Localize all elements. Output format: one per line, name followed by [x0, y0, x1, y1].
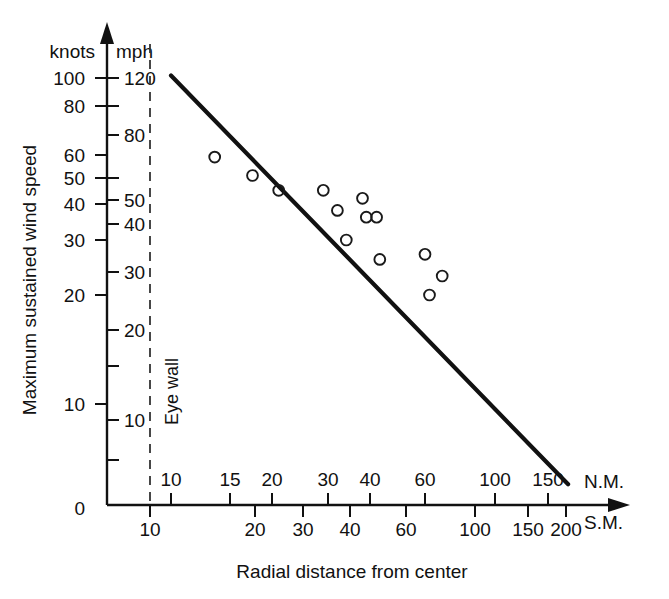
- y-tick-label-knots: 20: [64, 285, 85, 306]
- x-tick-label-nm: 40: [359, 469, 380, 490]
- data-point-marker: [420, 249, 431, 260]
- data-point-marker: [361, 212, 372, 223]
- y-tick-label-knots: 80: [64, 96, 85, 117]
- data-point-marker: [247, 170, 258, 181]
- data-point-marker: [332, 205, 343, 216]
- x-tick-label-nm: 10: [160, 469, 181, 490]
- x-unit-nm-label: N.M.: [584, 471, 624, 492]
- y-tick-label-knots: 10: [64, 394, 85, 415]
- x-unit-sm-label: S.M.: [584, 512, 623, 533]
- y-axis: [100, 22, 114, 505]
- x-tick-label-nm: 60: [414, 469, 435, 490]
- x-tick-label-nm: 30: [317, 469, 338, 490]
- y-tick-label-knots: 60: [64, 145, 85, 166]
- y-ticks-mph-group: 120805040302010: [107, 68, 156, 460]
- data-point-marker: [424, 290, 435, 301]
- x-tick-label-sm: 10: [139, 519, 160, 540]
- y-axis-arrowhead: [100, 22, 114, 44]
- data-point-marker: [374, 254, 385, 265]
- y-unit-mph-header: mph: [116, 41, 153, 62]
- y-tick-label-knots: 50: [64, 168, 85, 189]
- scatter-points-group: [209, 152, 447, 301]
- y-tick-label-mph: 20: [124, 320, 145, 341]
- x-ticks-sm-group: 1020304060100150200: [139, 505, 581, 540]
- x-tick-label-nm: 20: [261, 469, 282, 490]
- y-tick-label-mph: 80: [124, 125, 145, 146]
- x-tick-label-sm: 60: [395, 519, 416, 540]
- x-tick-label-sm: 20: [244, 519, 265, 540]
- x-tick-label-sm: 40: [339, 519, 360, 540]
- figure-container: 100806050403020100 120805040302010 10152…: [0, 0, 669, 599]
- y-tick-label-knots: 40: [64, 194, 85, 215]
- x-tick-label-nm: 15: [219, 469, 240, 490]
- data-point-marker: [341, 235, 352, 246]
- y-tick-label-mph: 40: [124, 214, 145, 235]
- x-axis-arrowhead: [608, 498, 630, 512]
- x-axis-title: Radial distance from center: [236, 561, 468, 582]
- y-tick-label-mph: 10: [124, 410, 145, 431]
- y-tick-label-mph: 30: [124, 262, 145, 283]
- eye-wall-label: Eye wall: [162, 358, 182, 425]
- trend-line: [171, 76, 568, 485]
- y-axis-title: Maximum sustained wind speed: [19, 145, 40, 415]
- y-tick-label-knots: 100: [53, 68, 85, 89]
- data-point-marker: [209, 152, 220, 163]
- y-tick-label-knots: 30: [64, 230, 85, 251]
- wind-speed-vs-radius-chart: 100806050403020100 120805040302010 10152…: [0, 0, 669, 599]
- y-tick-label-mph: 120: [124, 68, 156, 89]
- data-point-marker: [357, 193, 368, 204]
- x-tick-label-sm: 150: [512, 519, 544, 540]
- y-tick-label-knots: 0: [74, 498, 85, 519]
- x-tick-label-nm: 100: [479, 469, 511, 490]
- x-tick-label-sm: 100: [459, 519, 491, 540]
- x-axis: [107, 498, 630, 512]
- x-ticks-nm-group: 101520304060100150: [160, 469, 563, 505]
- x-tick-label-sm: 30: [292, 519, 313, 540]
- y-unit-knots-header: knots: [50, 41, 95, 62]
- x-tick-label-sm: 200: [550, 519, 582, 540]
- data-point-marker: [371, 212, 382, 223]
- y-tick-label-mph: 50: [124, 190, 145, 211]
- data-point-marker: [318, 185, 329, 196]
- data-point-marker: [437, 271, 448, 282]
- y-ticks-knots-group: 100806050403020100: [53, 68, 107, 519]
